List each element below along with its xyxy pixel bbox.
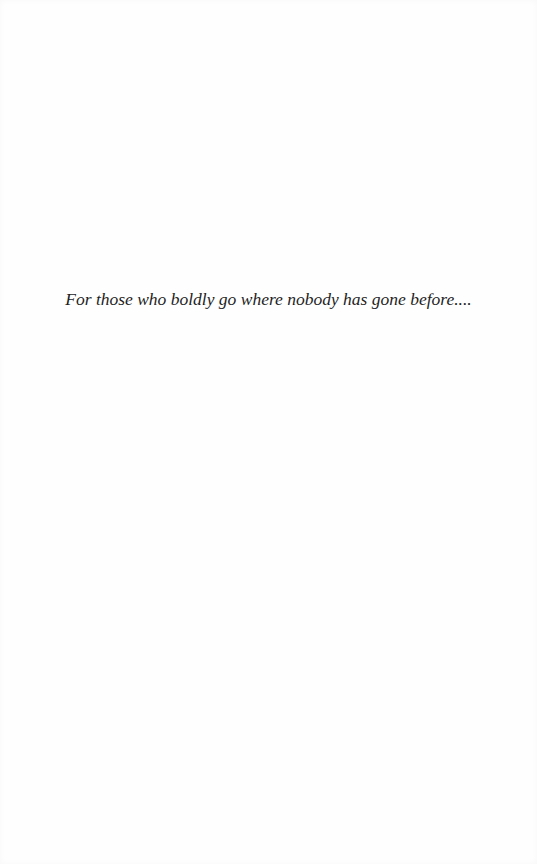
dedication-text: For those who boldly go where nobody has… xyxy=(0,288,537,310)
book-page: For those who boldly go where nobody has… xyxy=(0,0,537,864)
